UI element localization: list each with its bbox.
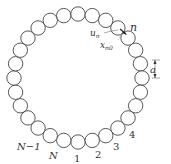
atom bbox=[57, 133, 71, 147]
label-1: 1 bbox=[74, 153, 80, 164]
atom bbox=[13, 99, 27, 113]
label-x-n0: xn0 bbox=[100, 40, 113, 51]
label-4: 4 bbox=[129, 129, 135, 140]
ring-diagram: n un xn0 a N−1 N 1 2 3 4 bbox=[0, 0, 171, 164]
label-u-n: un bbox=[90, 28, 100, 39]
atom bbox=[135, 71, 149, 85]
label-N-minus-1: N−1 bbox=[16, 141, 41, 152]
atom bbox=[43, 13, 57, 27]
atom bbox=[8, 57, 22, 71]
atom bbox=[8, 85, 22, 99]
atom bbox=[7, 71, 21, 85]
atoms bbox=[7, 7, 149, 149]
atom bbox=[71, 7, 85, 21]
atom bbox=[133, 57, 147, 71]
label-n: n bbox=[130, 21, 137, 34]
atom bbox=[85, 133, 99, 147]
atom bbox=[128, 43, 142, 57]
atom bbox=[85, 8, 99, 22]
label-3: 3 bbox=[113, 141, 119, 152]
atom bbox=[133, 85, 147, 99]
label-a: a bbox=[150, 64, 156, 75]
atom bbox=[71, 135, 85, 149]
label-2: 2 bbox=[95, 149, 101, 160]
atom bbox=[57, 8, 71, 22]
atom bbox=[99, 128, 113, 142]
label-N: N bbox=[48, 150, 59, 161]
